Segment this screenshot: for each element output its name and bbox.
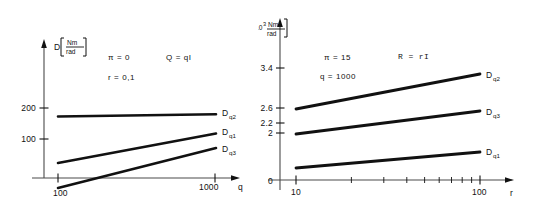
right-xtick-label-100: 100 xyxy=(472,187,487,197)
left-xaxis-name: q xyxy=(238,182,243,192)
left-curve-label-Dq1: D q1 xyxy=(222,127,236,139)
left-curve-label-Dq1-sub: q1 xyxy=(229,132,236,139)
left-x-axis xyxy=(32,175,240,181)
right-curve-Dq3 xyxy=(296,111,480,134)
right-curve-label-Dq1-sub: q1 xyxy=(493,152,500,159)
right-yaxis-unit-exponent: 3 xyxy=(263,21,266,27)
left-annotation-r: r = 0,1 xyxy=(108,73,135,82)
right-yaxis-unit-group: D 10 3 Nm rad xyxy=(258,19,287,37)
left-curve-label-Dq2-sub: q2 xyxy=(229,113,236,120)
chart-panel-right: 3.4 2.6 2.2 2 0 10 100 xyxy=(258,0,534,212)
chart-panel-left: 200 100 100 1000 q D Nm rad xyxy=(0,0,267,212)
left-annotation-pi: π = 0 xyxy=(108,53,130,62)
right-yaxis-unit-multiplier: 10 xyxy=(258,24,263,31)
left-yaxis-unit-numerator: Nm xyxy=(67,39,78,46)
right-curve-label-Dq3: D q3 xyxy=(486,107,500,119)
right-annotation-pi: π = 15 xyxy=(324,53,351,62)
left-curves xyxy=(58,114,216,188)
right-curve-label-Dq2: D q2 xyxy=(486,70,500,82)
left-annotation-Q: Q = qI xyxy=(166,53,192,62)
left-yaxis-unit-denominator: rad xyxy=(66,48,76,55)
left-xtick-label-100: 100 xyxy=(53,188,68,198)
right-y-axis xyxy=(277,18,283,190)
left-yaxis-unit-group: D Nm rad xyxy=(54,38,86,56)
right-xtick-label-10: 10 xyxy=(291,187,301,197)
left-curve-label-Dq1-main: D xyxy=(222,127,228,137)
left-chart-svg: 200 100 100 1000 q D Nm rad xyxy=(0,0,267,212)
right-curve-label-Dq2-sub: q2 xyxy=(493,75,500,82)
right-ytick-label-2-2: 2.2 xyxy=(261,118,273,128)
right-xaxis-name: r xyxy=(510,188,513,198)
left-curve-label-Dq3-main: D xyxy=(222,144,228,154)
right-yaxis-unit-denominator: rad xyxy=(267,30,277,37)
left-curve-label-Dq2: D q2 xyxy=(222,108,236,120)
right-curve-label-Dq2-main: D xyxy=(486,70,492,80)
right-ytick-label-3-4: 3.4 xyxy=(261,63,273,73)
right-ytick-label-2-6: 2.6 xyxy=(261,103,273,113)
right-yaxis-unit-numerator: Nm xyxy=(268,21,279,28)
right-yorigin-label: 0 xyxy=(268,176,273,186)
left-curve-label-Dq3: D q3 xyxy=(222,144,236,156)
left-ytick-label-100: 100 xyxy=(21,134,36,144)
right-curve-label-Dq1-main: D xyxy=(486,147,492,157)
right-annotation-q: q = 1000 xyxy=(320,72,356,81)
left-curve-label-Dq2-main: D xyxy=(222,108,228,118)
left-curve-Dq2 xyxy=(58,114,216,116)
right-x-axis xyxy=(268,177,514,183)
left-curve-label-Dq3-sub: q3 xyxy=(229,149,236,156)
left-curve-Dq1 xyxy=(58,134,216,164)
left-ytick-label-200: 200 xyxy=(21,103,36,113)
right-chart-svg: 3.4 2.6 2.2 2 0 10 100 xyxy=(258,0,534,212)
right-curve-Dq1 xyxy=(296,152,480,168)
right-curves xyxy=(296,74,480,168)
left-xtick-label-1000: 1000 xyxy=(199,182,219,192)
right-ytick-label-2: 2 xyxy=(268,128,273,138)
left-yaxis-symbol: D xyxy=(54,42,60,52)
right-annotation-R: R = rI xyxy=(398,52,429,61)
left-curve-Dq3 xyxy=(58,148,216,188)
figure-root: 200 100 100 1000 q D Nm rad xyxy=(0,0,534,212)
right-curve-label-Dq3-sub: q3 xyxy=(493,112,500,119)
right-curve-label-Dq1: D q1 xyxy=(486,147,500,159)
right-curve-label-Dq3-main: D xyxy=(486,107,492,117)
